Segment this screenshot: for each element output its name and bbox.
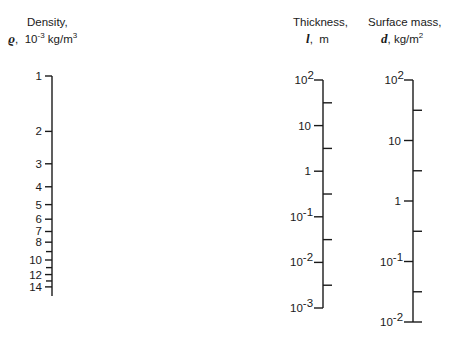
- density-tick-label: 4: [36, 181, 43, 193]
- thickness-tick-label: 10-3: [290, 297, 313, 314]
- density-tick-label: 5: [36, 199, 42, 211]
- density-tick-label: 6: [36, 213, 42, 225]
- thickness-tick-label: 10-1: [290, 206, 313, 223]
- surface-mass-tick-label: 102: [385, 69, 404, 86]
- surface-mass-tick-label: 10-2: [380, 311, 403, 328]
- density-tick-label: 2: [36, 125, 42, 137]
- surface-mass-tick-label: 1: [395, 195, 401, 207]
- thickness-tick-label: 10-2: [290, 251, 313, 268]
- nomogram-canvas: 1234567810121410210110-110-210-310210110…: [0, 0, 452, 337]
- thickness-tick-label: 102: [295, 69, 314, 86]
- density-tick-label: 14: [29, 281, 42, 293]
- density-tick-label: 10: [29, 254, 42, 266]
- thickness-tick-label: 10: [298, 120, 311, 132]
- thickness-tick-label: 1: [305, 165, 311, 177]
- density-tick-label: 8: [36, 236, 42, 248]
- density-tick-label: 12: [29, 269, 42, 281]
- density-tick-label: 1: [36, 70, 42, 82]
- surface-mass-tick-label: 10-1: [380, 251, 403, 268]
- surface-mass-tick-label: 10: [388, 135, 401, 147]
- density-tick-label: 3: [36, 158, 42, 170]
